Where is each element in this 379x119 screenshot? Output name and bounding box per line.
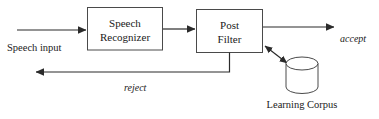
node-post-filter-label-line2: Filter [218,33,242,45]
label-speech-input: Speech input [7,42,62,53]
node-speech-recognizer-label-line1: Speech [109,17,141,29]
label-learning-corpus: Learning Corpus [267,99,338,110]
edge-postfilter-corpus-bidirectional [265,46,287,63]
node-post-filter-label-line1: Post [220,19,239,31]
flow-diagram: Speech Recognizer Post Filter Speech inp… [0,0,379,119]
node-speech-recognizer-label-line2: Recognizer [100,31,150,43]
edge-reject-path [36,53,230,73]
node-learning-corpus-top [286,57,318,70]
diagram-canvas: Speech Recognizer Post Filter Speech inp… [0,0,379,119]
label-accept: accept [340,33,366,44]
node-post-filter [197,10,263,53]
label-reject: reject [124,82,147,93]
